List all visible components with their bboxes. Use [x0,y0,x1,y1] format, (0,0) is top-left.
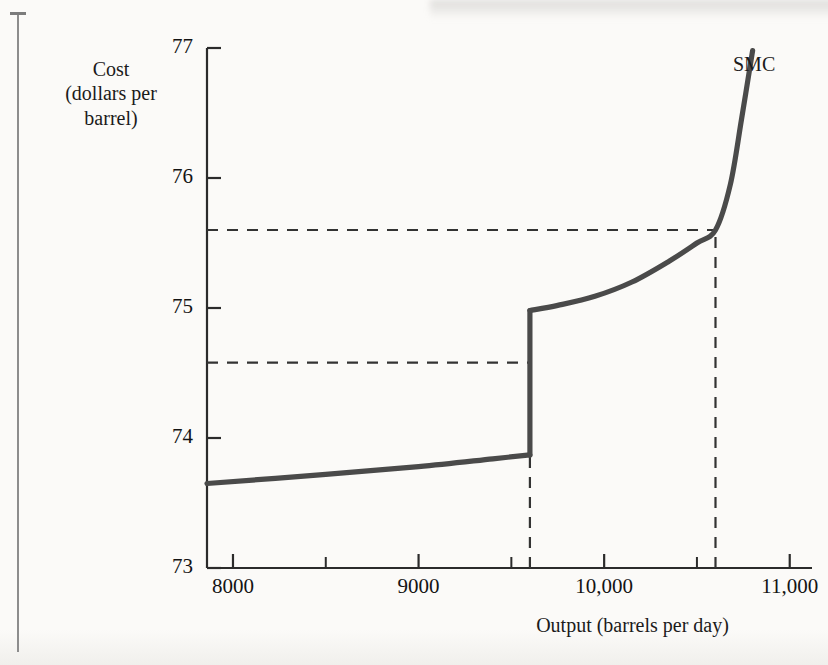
page-canvas: Cost (dollars per barrel) Output (barrel… [0,0,828,665]
y-axis-title-line-3: barrel) [36,106,186,130]
y-tick-label-77: 77 [151,34,193,59]
x-axis-minor-ticks [326,557,697,568]
y-axis-title-line-1: Cost [36,57,186,81]
y-tick-label-74: 74 [151,424,193,449]
chart-axes [207,48,812,568]
smc-segment-lower-branch [207,455,530,484]
x-tick-label-11000: 11,000 [735,574,828,599]
smc-curve [207,51,753,484]
y-axis-title-line-2: (dollars per [36,81,186,105]
y-tick-label-76: 76 [151,164,193,189]
y-tick-label-75: 75 [151,294,193,319]
x-tick-label-8000: 8000 [178,574,288,599]
y-axis-ticks [207,48,221,568]
smc-segment-upper-branch [530,51,753,311]
x-tick-label-9000: 9000 [364,574,474,599]
smc-curve-label: SMC [733,53,775,76]
x-axis-title: Output (barrels per day) [455,613,810,637]
y-axis-title: Cost (dollars per barrel) [36,57,186,130]
x-tick-label-10000: 10,000 [549,574,659,599]
